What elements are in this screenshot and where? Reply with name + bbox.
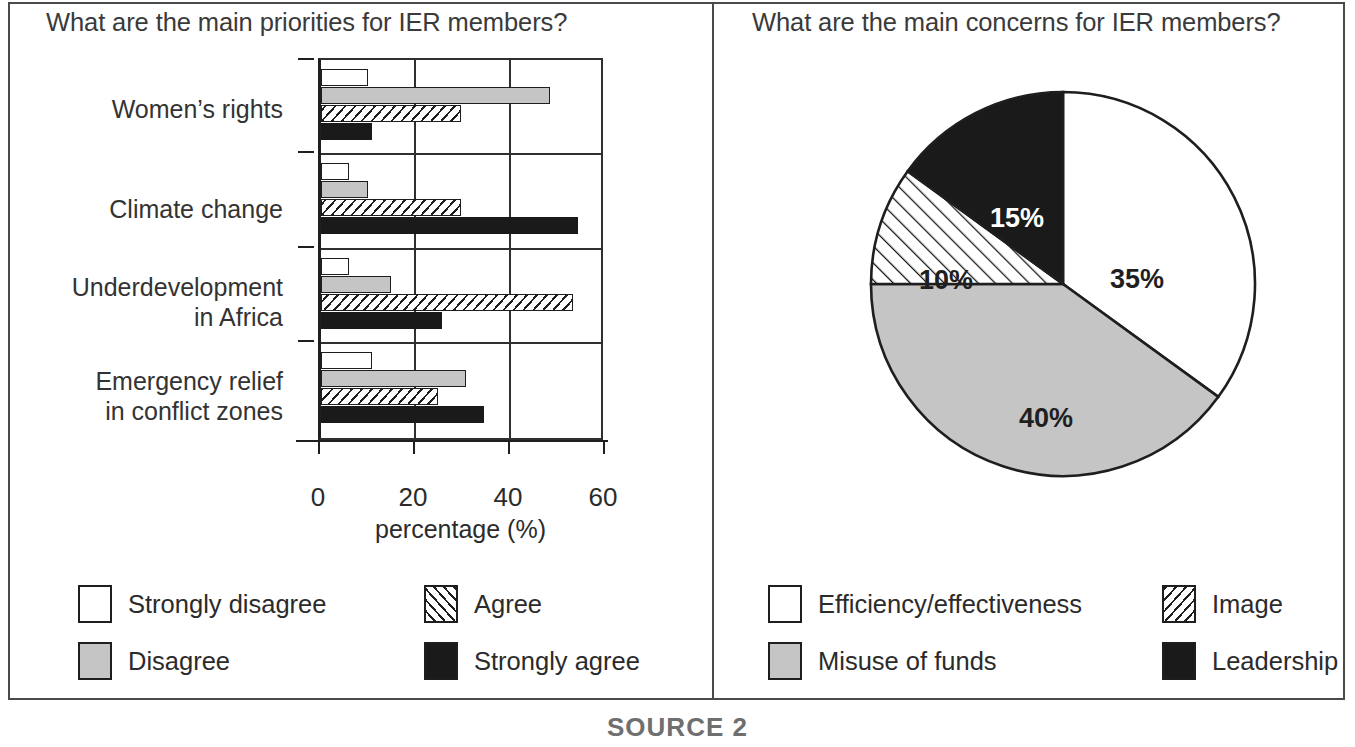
legend-label-disagree: Disagree (128, 647, 230, 676)
bar-strongly-disagree (321, 352, 372, 369)
legend-label-efficiency-effectiveness: Efficiency/effectiveness (818, 590, 1082, 619)
xtick-60 (603, 440, 605, 454)
xtick-0 (318, 440, 320, 454)
bar-strongly-agree (321, 406, 484, 423)
legend-label-agree: Agree (474, 590, 542, 619)
bar-agree (321, 199, 461, 216)
legend-item-strongly-agree: Strongly agree (424, 642, 640, 680)
bar-agree (321, 294, 573, 311)
legend-swatch-white (78, 585, 112, 623)
legend-swatch-black (424, 642, 458, 680)
legend-swatch-white (768, 585, 802, 623)
bar-group-emergency-relief (321, 343, 601, 439)
legend-item-misuse-of-funds: Misuse of funds (768, 642, 997, 680)
legend-label-strongly-agree: Strongly agree (474, 647, 640, 676)
xtick-40 (508, 440, 510, 454)
xtick-20 (413, 440, 415, 454)
x-axis-caption: percentage (%) (318, 515, 603, 544)
bar-chart-plot-area (318, 58, 603, 440)
bar-agree (321, 388, 438, 405)
bar-disagree (321, 370, 466, 387)
panel-divider (712, 2, 714, 700)
bar-strongly-agree (321, 123, 372, 140)
pie-chart: 35% 40% 10% 15% (867, 88, 1259, 480)
category-label-climate-change: Climate change (109, 194, 283, 224)
legend-label-leadership: Leadership (1212, 647, 1338, 676)
bar-group-womens-rights (321, 60, 601, 153)
bar-agree (321, 105, 461, 122)
legend-swatch-gray (768, 642, 802, 680)
bar-disagree (321, 276, 391, 293)
legend-item-strongly-disagree: Strongly disagree (78, 585, 326, 623)
legend-item-image: Image (1162, 585, 1283, 623)
pie-label-misuse-of-funds: 40% (1019, 403, 1073, 434)
legend-swatch-black (1162, 642, 1196, 680)
legend-item-leadership: Leadership (1162, 642, 1338, 680)
legend-label-misuse-of-funds: Misuse of funds (818, 647, 997, 676)
bar-strongly-agree (321, 312, 442, 329)
category-label-emergency-relief: Emergency relief in conflict zones (95, 366, 283, 426)
xtick-label-40: 40 (478, 482, 538, 513)
bar-strongly-disagree (321, 163, 349, 180)
legend-item-agree: Agree (424, 585, 542, 623)
bar-strongly-disagree (321, 69, 368, 86)
bar-group-climate-change (321, 154, 601, 248)
legend-swatch-hatched (424, 585, 458, 623)
bar-group-underdevelopment-africa (321, 249, 601, 342)
legend-label-image: Image (1212, 590, 1283, 619)
figure-root: What are the main priorities for IER mem… (0, 0, 1355, 747)
xtick-label-20: 20 (383, 482, 443, 513)
bar-disagree (321, 87, 550, 104)
ytick-top (298, 58, 314, 60)
source-caption: SOURCE 2 (0, 712, 1355, 747)
xtick-label-0: 0 (288, 482, 348, 513)
legend-label-strongly-disagree: Strongly disagree (128, 590, 326, 619)
ytick-1 (298, 151, 314, 153)
bar-chart-title: What are the main priorities for IER mem… (46, 8, 567, 37)
xtick-label-60: 60 (573, 482, 633, 513)
pie-label-efficiency-effectiveness: 35% (1110, 264, 1164, 295)
x-axis-line (296, 440, 608, 442)
bar-disagree (321, 181, 368, 198)
bar-strongly-disagree (321, 258, 349, 275)
legend-item-efficiency-effectiveness: Efficiency/effectiveness (768, 585, 1082, 623)
pie-label-image: 10% (919, 265, 973, 296)
bar-strongly-agree (321, 217, 578, 234)
legend-swatch-gray (78, 642, 112, 680)
category-label-underdevelopment-africa: Underdevelopment in Africa (72, 272, 283, 332)
legend-swatch-hatched (1162, 585, 1196, 623)
category-label-womens-rights: Women’s rights (112, 94, 283, 124)
pie-chart-title: What are the main concerns for IER membe… (752, 8, 1281, 37)
ytick-3 (298, 340, 314, 342)
pie-label-leadership: 15% (990, 203, 1044, 234)
ytick-2 (298, 246, 314, 248)
legend-item-disagree: Disagree (78, 642, 230, 680)
